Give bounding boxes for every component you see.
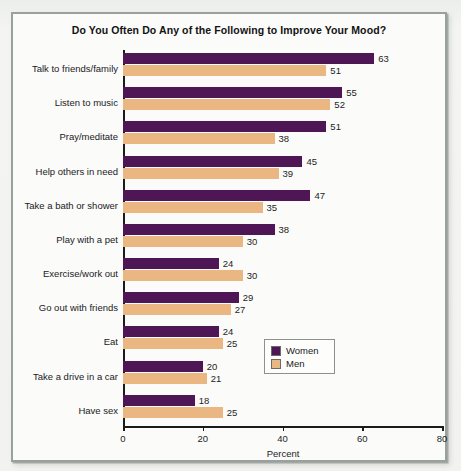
bar-value-label: 30 — [247, 236, 258, 247]
bar-women — [123, 224, 275, 235]
bar-women — [123, 121, 326, 132]
chart-inner: Do You Often Do Any of the Following to … — [13, 14, 445, 460]
x-axis-tick — [123, 426, 125, 431]
legend-swatch-women-icon — [271, 346, 281, 356]
bar-men — [123, 202, 263, 213]
bar-value-label: 47 — [314, 190, 325, 201]
bar-value-label: 29 — [243, 292, 254, 303]
bar-group: Pray/meditate5138 — [123, 118, 442, 152]
bar-men — [123, 373, 207, 384]
x-axis-tick-label: 20 — [197, 433, 208, 444]
chart-legend: Women Men — [264, 339, 335, 374]
bar-women — [123, 395, 195, 406]
bar-women — [123, 361, 203, 372]
category-label: Listen to music — [0, 97, 118, 108]
bar-value-label: 20 — [207, 361, 218, 372]
bar-value-label: 21 — [211, 373, 222, 384]
bar-value-label: 39 — [283, 168, 294, 179]
bar-value-label: 30 — [247, 270, 258, 281]
bar-value-label: 38 — [279, 133, 290, 144]
bar-women — [123, 53, 374, 64]
category-label: Help others in need — [0, 166, 118, 177]
bar-men — [123, 65, 326, 76]
legend-item-women: Women — [271, 344, 334, 357]
bar-men — [123, 133, 275, 144]
bar-value-label: 24 — [223, 258, 234, 269]
bar-group: Talk to friends/family6351 — [123, 50, 442, 84]
bar-value-label: 25 — [227, 407, 238, 418]
legend-item-men: Men — [271, 357, 334, 370]
bar-value-label: 24 — [223, 326, 234, 337]
category-label: Talk to friends/family — [0, 63, 118, 74]
x-axis-tick — [442, 426, 444, 431]
bar-women — [123, 156, 302, 167]
bar-men — [123, 236, 243, 247]
x-axis-label: Percent — [267, 448, 300, 459]
bar-women — [123, 326, 219, 337]
category-label: Play with a pet — [0, 234, 118, 245]
legend-label-men: Men — [286, 358, 304, 369]
bar-value-label: 38 — [279, 224, 290, 235]
x-axis-tick — [203, 426, 205, 431]
bar-group: Listen to music5552 — [123, 84, 442, 118]
bar-women — [123, 258, 219, 269]
bar-men — [123, 168, 279, 179]
bar-value-label: 51 — [330, 121, 341, 132]
bar-women — [123, 87, 342, 98]
chart-frame: Do You Often Do Any of the Following to … — [11, 12, 447, 462]
bar-value-label: 51 — [330, 65, 341, 76]
bar-value-label: 18 — [199, 395, 210, 406]
bar-group: Help others in need4539 — [123, 153, 442, 187]
bar-value-label: 25 — [227, 338, 238, 349]
x-axis-tick-label: 0 — [120, 433, 125, 444]
x-axis-tick — [362, 426, 364, 431]
bar-men — [123, 270, 243, 281]
bar-group: Play with a pet3830 — [123, 221, 442, 255]
bar-group: Go out with friends2927 — [123, 289, 442, 323]
x-axis-tick-label: 80 — [437, 433, 448, 444]
category-label: Pray/meditate — [0, 131, 118, 142]
x-axis-tick-label: 60 — [357, 433, 368, 444]
legend-label-women: Women — [286, 345, 319, 356]
legend-swatch-men-icon — [271, 359, 281, 369]
category-label: Go out with friends — [0, 302, 118, 313]
bar-women — [123, 292, 239, 303]
x-axis-tick-label: 40 — [277, 433, 288, 444]
category-label: Take a bath or shower — [0, 200, 118, 211]
bar-men — [123, 338, 223, 349]
bar-group: Have sex1825 — [123, 392, 442, 426]
bar-men — [123, 304, 231, 315]
bar-value-label: 52 — [334, 99, 345, 110]
category-label: Eat — [0, 336, 118, 347]
category-label: Take a drive in a car — [0, 371, 118, 382]
bar-group: Exercise/work out2430 — [123, 255, 442, 289]
bar-value-label: 35 — [267, 202, 278, 213]
bar-women — [123, 190, 310, 201]
bar-men — [123, 99, 330, 110]
bar-value-label: 45 — [306, 156, 317, 167]
category-label: Have sex — [0, 405, 118, 416]
bar-value-label: 27 — [235, 304, 246, 315]
x-axis-tick — [283, 426, 285, 431]
bar-men — [123, 407, 223, 418]
bar-value-label: 55 — [346, 87, 357, 98]
bar-group: Take a bath or shower4735 — [123, 187, 442, 221]
chart-title: Do You Often Do Any of the Following to … — [13, 24, 445, 36]
bar-value-label: 63 — [378, 53, 389, 64]
category-label: Exercise/work out — [0, 268, 118, 279]
